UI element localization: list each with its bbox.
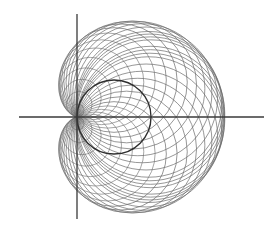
diagram-canvas [0, 0, 279, 232]
cardioid-diagram [0, 0, 279, 232]
